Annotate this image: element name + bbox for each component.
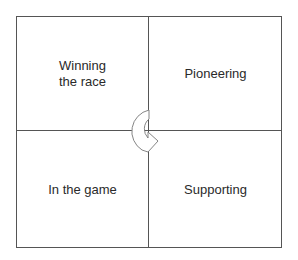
quadrant-supporting: Supporting (149, 131, 282, 248)
quadrant-pioneering: Pioneering (149, 17, 282, 130)
curved-arrow-clockwise-icon (118, 104, 168, 154)
